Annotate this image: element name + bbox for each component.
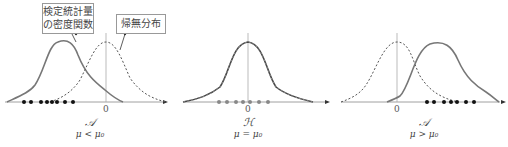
condition-label-right: μ > μ₀ [400, 129, 448, 139]
callout-density-line1: 検定統計量 [43, 5, 93, 18]
axis-arrow-icon [325, 100, 330, 104]
zero-label-left: 0 [103, 104, 109, 114]
condition-label-center: μ = μ₀ [224, 129, 272, 139]
panel-center [183, 33, 330, 104]
callout-test-statistic-density: 検定統計量 の密度関数 [42, 3, 94, 34]
callout-density-line2: の密度関数 [43, 18, 93, 31]
callout-null-label: 帰無分布 [121, 18, 161, 29]
axis-arrow-icon [501, 100, 506, 104]
axis-arrow-icon [163, 100, 168, 104]
test-density-curve-right [387, 43, 499, 102]
callout-null-distribution: 帰無分布 [116, 14, 166, 34]
hypothesis-label-center: ℋ [238, 116, 258, 129]
callout-leader-density [72, 34, 76, 42]
zero-label-right: 0 [394, 104, 400, 114]
null-dist-curve-right [341, 42, 458, 102]
hypothesis-label-left: 𝒜 [80, 116, 100, 129]
callout-leader-null [120, 34, 125, 50]
hypothesis-label-right: 𝒜 [414, 116, 434, 129]
panel-left [5, 33, 168, 104]
condition-label-left: μ < μ₀ [66, 129, 114, 139]
zero-label-center: 0 [245, 104, 251, 114]
panel-right [341, 33, 506, 104]
